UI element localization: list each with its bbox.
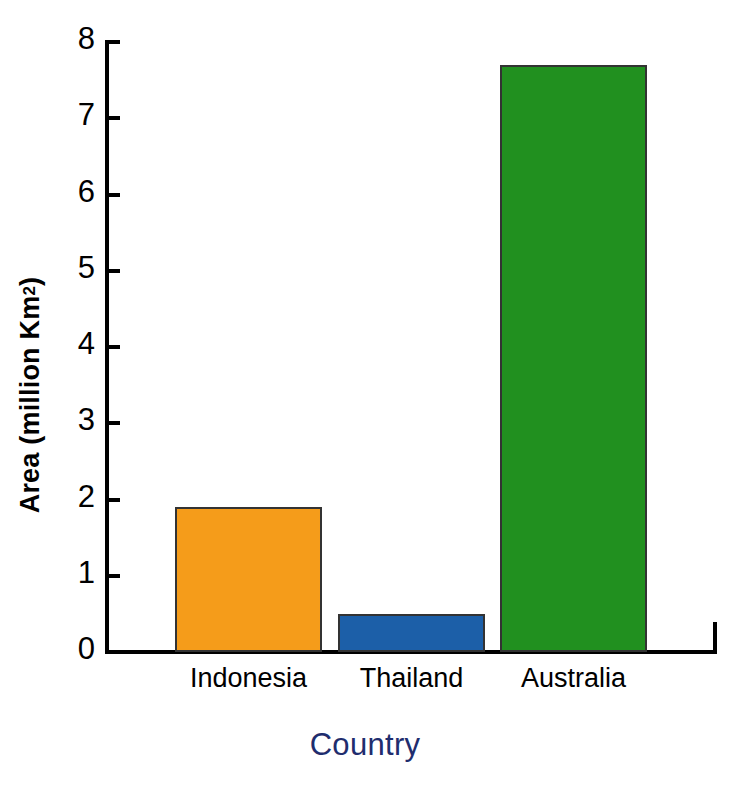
y-axis-tick-label: 8 xyxy=(47,21,95,57)
y-axis-tick-label: 2 xyxy=(47,479,95,515)
y-axis-tick-label: 3 xyxy=(47,402,95,438)
bar-australia xyxy=(500,65,647,652)
x-axis-label-australia: Australia xyxy=(444,663,704,694)
bar-indonesia xyxy=(175,507,322,652)
bar-thailand xyxy=(338,614,485,652)
y-axis-title-text: Area (million Km xyxy=(15,296,46,514)
x-axis-title: Country xyxy=(0,727,730,763)
y-axis-title-close-paren: ) xyxy=(15,277,46,286)
y-axis-tick-label: 4 xyxy=(47,326,95,362)
y-axis-tick-label: 1 xyxy=(47,555,95,591)
bar-chart: Area (million Km2) 012345678 IndonesiaTh… xyxy=(0,0,730,790)
y-axis-tick-label: 7 xyxy=(47,97,95,133)
y-axis-tick-label: 5 xyxy=(47,250,95,286)
y-axis-tick-label: 0 xyxy=(47,631,95,667)
y-axis-tick-label: 6 xyxy=(47,174,95,210)
bars-layer xyxy=(105,42,717,652)
